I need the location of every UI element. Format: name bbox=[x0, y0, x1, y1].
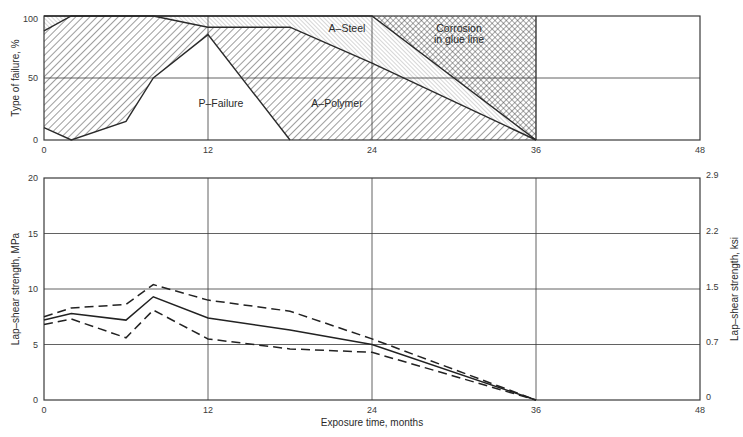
bottom-x-tick-36: 36 bbox=[531, 405, 541, 415]
lap-shear-strength-chart: 0 12 24 36 48 0 5 10 15 20 0 0.7 1.5 2.2… bbox=[10, 170, 740, 428]
bottom-x-tick-12: 12 bbox=[203, 405, 213, 415]
right-y-tick-0: 0 bbox=[706, 392, 711, 402]
top-x-tick-24: 24 bbox=[367, 145, 377, 155]
strength-series bbox=[44, 285, 536, 400]
p-failure-label: P–Failure bbox=[199, 97, 244, 109]
top-y-tick-50: 50 bbox=[28, 73, 38, 83]
right-y-tick-2-2: 2.2 bbox=[706, 226, 719, 236]
failure-type-chart: 0 12 24 36 48 0 50 100 Type of failure, … bbox=[10, 14, 705, 155]
x-axis-label: Exposure time, months bbox=[321, 417, 423, 428]
right-y-tick-1-5: 1.5 bbox=[706, 282, 719, 292]
bottom-y-axis-label-right: Lap–shear strength, ksi bbox=[729, 237, 740, 341]
top-x-ticks: 0 12 24 36 48 bbox=[41, 145, 705, 155]
bottom-y-ticks-right: 0 0.7 1.5 2.2 2.9 bbox=[706, 170, 719, 402]
bottom-x-ticks: 0 12 24 36 48 bbox=[41, 405, 705, 415]
bottom-y-axis-label-left: Lap–shear strength, MPa bbox=[10, 232, 21, 345]
right-y-tick-2-9: 2.9 bbox=[706, 170, 719, 180]
a-steel-label: A–Steel bbox=[329, 22, 366, 34]
top-y-axis-label: Type of failure, % bbox=[10, 39, 21, 116]
top-x-tick-36: 36 bbox=[531, 145, 541, 155]
left-y-tick-15: 15 bbox=[28, 229, 38, 239]
left-y-tick-0: 0 bbox=[33, 395, 38, 405]
top-x-tick-12: 12 bbox=[203, 145, 213, 155]
bottom-y-ticks-left: 0 5 10 15 20 bbox=[28, 173, 38, 405]
top-y-ticks: 0 50 100 bbox=[23, 14, 38, 145]
series-lower-bound bbox=[44, 310, 536, 400]
left-y-tick-5: 5 bbox=[33, 340, 38, 350]
top-y-tick-0: 0 bbox=[33, 135, 38, 145]
top-x-tick-48: 48 bbox=[695, 145, 705, 155]
right-y-tick-0-7: 0.7 bbox=[706, 337, 719, 347]
top-x-tick-0: 0 bbox=[41, 145, 46, 155]
bottom-x-tick-48: 48 bbox=[695, 405, 705, 415]
left-y-tick-20: 20 bbox=[28, 173, 38, 183]
bottom-grid bbox=[44, 178, 700, 400]
a-polymer-label: A–Polymer bbox=[311, 97, 363, 109]
failure-and-strength-figure: 0 12 24 36 48 0 50 100 Type of failure, … bbox=[0, 0, 743, 437]
corrosion-label-line2: in glue line bbox=[434, 33, 484, 45]
series-upper-bound bbox=[44, 285, 536, 400]
bottom-x-tick-24: 24 bbox=[367, 405, 377, 415]
bottom-x-tick-0: 0 bbox=[41, 405, 46, 415]
top-y-tick-100: 100 bbox=[23, 14, 38, 24]
left-y-tick-10: 10 bbox=[28, 284, 38, 294]
